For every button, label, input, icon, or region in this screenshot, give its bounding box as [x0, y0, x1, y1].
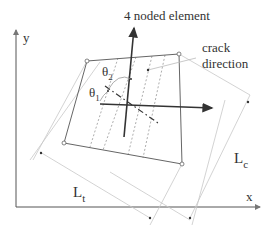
node: [85, 59, 89, 63]
crack-label-line1: crack: [202, 40, 231, 55]
angle-arcs: [100, 77, 131, 101]
title-label: 4 noded element: [124, 8, 210, 23]
dimension-lines: [30, 54, 250, 225]
lt-label: Lt: [73, 184, 85, 204]
local-axis-vertical: [124, 28, 134, 137]
lc-label: Lc: [234, 150, 248, 170]
theta2-label: θ2: [102, 64, 113, 82]
theta1-label: θ1: [89, 85, 100, 103]
node: [62, 141, 66, 145]
local-axes: [100, 28, 212, 137]
crack-label-line2: direction: [202, 56, 249, 71]
crack-pointer-line: [148, 58, 196, 70]
local-axis-horizontal: [100, 104, 212, 108]
x-axis-label: x: [246, 189, 253, 204]
y-axis-label: y: [23, 30, 30, 45]
lt-dimension-line: [40, 152, 150, 218]
node: [177, 52, 181, 56]
crack-element-diagram: 4 noded element crack direction y x θ2 θ…: [0, 0, 273, 233]
node: [180, 162, 184, 166]
element-nodes: [62, 52, 184, 166]
